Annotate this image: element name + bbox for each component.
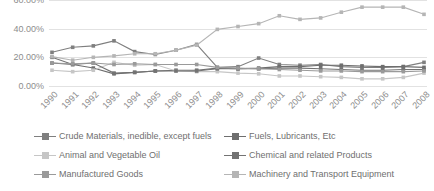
data-point-marker bbox=[112, 71, 116, 75]
data-point-marker bbox=[381, 65, 385, 69]
x-axis-tick-label: 2001 bbox=[263, 89, 287, 113]
data-point-marker bbox=[236, 66, 240, 70]
line-chart: 0.00%20.00%40.00%60.00% 1990199119921993… bbox=[0, 0, 434, 191]
data-point-marker bbox=[92, 61, 96, 65]
data-point-marker bbox=[402, 70, 406, 74]
data-point-marker bbox=[298, 18, 302, 22]
data-point-marker bbox=[174, 69, 178, 73]
legend-item[interactable]: Chemical and related Products bbox=[224, 148, 372, 162]
legend-marker-icon bbox=[224, 151, 246, 160]
legend-marker-icon bbox=[224, 132, 246, 141]
data-point-marker bbox=[278, 68, 282, 72]
data-point-marker bbox=[319, 75, 323, 79]
data-point-marker bbox=[402, 5, 406, 9]
x-axis-tick-label: 1993 bbox=[98, 89, 122, 113]
y-axis-tick-label: 40.00% bbox=[13, 24, 44, 33]
data-point-marker bbox=[50, 68, 54, 72]
legend-item-label: Chemical and related Products bbox=[249, 150, 372, 160]
data-point-marker bbox=[195, 43, 199, 47]
series-line bbox=[52, 41, 424, 68]
gridline bbox=[49, 86, 427, 87]
data-point-marker bbox=[360, 70, 364, 74]
legend-item-label: Crude Materials, inedible, except fuels bbox=[59, 131, 212, 141]
legend-item-label: Fuels, Lubricants, Etc bbox=[249, 131, 336, 141]
x-axis: 1990199119921993199419951996199719981999… bbox=[49, 88, 427, 128]
y-axis-tick-label: 0.00% bbox=[18, 82, 44, 91]
data-point-marker bbox=[92, 68, 96, 72]
data-point-marker bbox=[319, 63, 323, 67]
legend-item-label: Machinery and Transport Equipment bbox=[249, 169, 394, 179]
x-axis-tick-label: 2000 bbox=[242, 89, 266, 113]
data-point-marker bbox=[195, 69, 199, 73]
legend-item[interactable]: Manufactured Goods bbox=[34, 167, 143, 181]
data-point-marker bbox=[154, 69, 158, 73]
data-point-marker bbox=[195, 63, 199, 67]
y-axis-tick-label: 20.00% bbox=[13, 53, 44, 62]
legend-item[interactable]: Crude Materials, inedible, except fuels bbox=[34, 129, 212, 143]
data-point-marker bbox=[154, 52, 158, 56]
legend-item[interactable]: Machinery and Transport Equipment bbox=[224, 167, 394, 181]
data-point-marker bbox=[236, 25, 240, 29]
legend-marker-icon bbox=[34, 132, 56, 141]
data-point-marker bbox=[133, 71, 137, 75]
legend-item[interactable]: Fuels, Lubricants, Etc bbox=[224, 129, 336, 143]
data-point-marker bbox=[278, 74, 282, 78]
data-point-marker bbox=[319, 69, 323, 73]
x-axis-tick-label: 2004 bbox=[325, 89, 349, 113]
data-point-marker bbox=[340, 10, 344, 14]
plot-area bbox=[49, 0, 427, 86]
data-point-marker bbox=[340, 76, 344, 80]
data-point-marker bbox=[422, 13, 426, 17]
legend-marker-icon bbox=[34, 151, 56, 160]
data-point-marker bbox=[236, 71, 240, 75]
x-axis-tick-label: 1998 bbox=[201, 89, 225, 113]
data-point-marker bbox=[402, 76, 406, 80]
data-point-marker bbox=[71, 70, 75, 74]
data-point-marker bbox=[112, 54, 116, 58]
legend-marker-icon bbox=[34, 170, 56, 179]
series-line bbox=[52, 7, 424, 60]
legend: Crude Materials, inedible, except fuelsF… bbox=[0, 129, 434, 187]
x-axis-tick-label: 2008 bbox=[408, 89, 432, 113]
data-point-marker bbox=[133, 62, 137, 66]
x-axis-tick-label: 2003 bbox=[304, 89, 328, 113]
data-point-marker bbox=[298, 74, 302, 78]
data-point-marker bbox=[360, 77, 364, 81]
y-axis: 0.00%20.00%40.00%60.00% bbox=[0, 0, 48, 86]
series-5 bbox=[50, 5, 426, 62]
data-point-marker bbox=[360, 64, 364, 68]
data-point-marker bbox=[257, 67, 261, 71]
data-point-marker bbox=[257, 56, 261, 60]
data-point-marker bbox=[50, 55, 54, 59]
data-point-marker bbox=[112, 63, 116, 67]
x-axis-tick-label: 1995 bbox=[139, 89, 163, 113]
data-point-marker bbox=[340, 63, 344, 67]
data-point-marker bbox=[422, 61, 426, 65]
x-axis-tick-label: 2007 bbox=[387, 89, 411, 113]
x-axis-tick-label: 2006 bbox=[366, 89, 390, 113]
x-axis-tick-label: 1990 bbox=[36, 89, 60, 113]
data-point-marker bbox=[298, 68, 302, 72]
plot-wrapper: 0.00%20.00%40.00%60.00% 1990199119921993… bbox=[0, 0, 434, 128]
data-point-marker bbox=[360, 5, 364, 9]
data-point-marker bbox=[257, 72, 261, 76]
data-point-marker bbox=[71, 58, 75, 62]
data-point-marker bbox=[92, 56, 96, 60]
data-point-marker bbox=[319, 16, 323, 20]
data-point-marker bbox=[422, 69, 426, 73]
x-axis-tick-label: 1994 bbox=[118, 89, 142, 113]
data-point-marker bbox=[257, 22, 261, 26]
data-point-marker bbox=[133, 52, 137, 56]
data-point-marker bbox=[174, 48, 178, 52]
data-point-marker bbox=[216, 66, 220, 70]
y-axis-tick-label: 60.00% bbox=[13, 0, 44, 5]
data-point-marker bbox=[71, 62, 75, 66]
x-axis-tick-label: 1996 bbox=[160, 89, 184, 113]
x-axis-tick-label: 1992 bbox=[77, 89, 101, 113]
data-point-marker bbox=[216, 28, 220, 32]
data-point-marker bbox=[50, 51, 54, 55]
data-point-marker bbox=[112, 39, 116, 43]
data-point-marker bbox=[50, 61, 54, 65]
legend-item[interactable]: Animal and Vegetable Oil bbox=[34, 148, 160, 162]
x-axis-tick-label: 1999 bbox=[222, 89, 246, 113]
